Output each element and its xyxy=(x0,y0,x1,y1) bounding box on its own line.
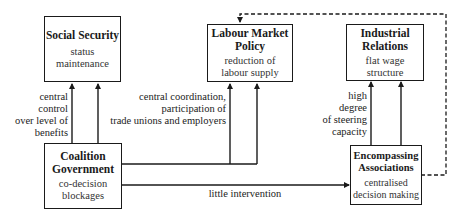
node-encompassing-associations: Encompassing Associations centralised de… xyxy=(350,145,422,205)
node-title: Encompassing Associations xyxy=(354,150,419,174)
node-subtitle: co-decision blockages xyxy=(59,178,107,202)
node-coalition-government: Coalition Government co-decision blockag… xyxy=(44,143,122,209)
node-title: Industrial Relations xyxy=(360,27,409,53)
node-title: Labour Market Policy xyxy=(212,27,289,53)
node-subtitle: flat wage structure xyxy=(366,55,405,79)
node-subtitle: centralised decision making xyxy=(353,177,419,201)
label-central-coordination: central coordination, participation of t… xyxy=(96,91,226,127)
node-industrial-relations: Industrial Relations flat wage structure xyxy=(346,24,424,81)
edge-coalition-to-social-security xyxy=(72,84,98,143)
node-subtitle: status maintenance xyxy=(56,46,109,70)
edge-encompassing-to-industrial xyxy=(371,82,401,145)
label-steering-capacity: high degree of steering capacity xyxy=(310,90,367,138)
label-central-control: central control over level of benefits xyxy=(10,91,68,139)
node-subtitle: reduction of labour supply xyxy=(221,55,278,79)
node-title: Social Security xyxy=(46,29,119,42)
node-labour-market-policy: Labour Market Policy reduction of labour… xyxy=(207,24,293,82)
node-social-security: Social Security status maintenance xyxy=(44,16,121,82)
node-title: Coalition Government xyxy=(52,150,114,176)
label-little-intervention: little intervention xyxy=(190,188,300,200)
